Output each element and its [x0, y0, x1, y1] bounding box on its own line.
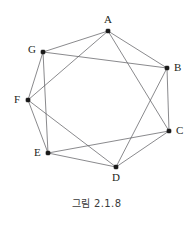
figure-container: ABCDEFG 그림 2.1.8 — [0, 0, 193, 226]
vertex-label-f: F — [14, 94, 20, 105]
vertex-label-e: E — [34, 147, 41, 158]
graph-vertex — [41, 50, 45, 54]
graph-edge — [116, 131, 169, 167]
vertex-label-g: G — [28, 44, 36, 55]
graph-edge — [108, 31, 167, 68]
graph-vertex — [106, 29, 110, 33]
graph-edge — [28, 100, 116, 167]
graph-edge — [28, 52, 43, 100]
vertex-label-c: C — [176, 125, 183, 136]
graph-vertex — [165, 66, 169, 70]
graph-edge — [116, 68, 167, 167]
graph-edge — [48, 153, 116, 167]
graph-edge — [28, 31, 108, 100]
graph-vertex — [26, 98, 30, 102]
graph-edge — [43, 31, 108, 52]
graph-vertex — [114, 165, 118, 169]
graph-edge — [43, 52, 48, 153]
figure-caption: 그림 2.1.8 — [0, 195, 193, 210]
graph-edge — [108, 31, 169, 131]
graph-edge — [43, 52, 167, 68]
graph-vertex — [167, 129, 171, 133]
graph-edge — [167, 68, 169, 131]
vertex-label-d: D — [112, 172, 120, 183]
graph-diagram — [0, 0, 193, 226]
edge-group — [28, 31, 169, 167]
graph-vertex — [46, 151, 50, 155]
vertex-label-a: A — [104, 14, 112, 25]
vertex-label-b: B — [174, 62, 181, 73]
graph-edge — [48, 131, 169, 153]
